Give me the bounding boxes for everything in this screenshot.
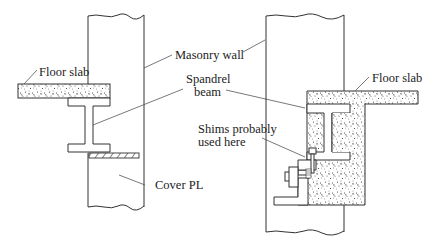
label-cover-pl: Cover PL bbox=[155, 178, 203, 192]
bolt-head-vertical bbox=[309, 148, 316, 154]
label-floor-slab-right: Floor slab bbox=[372, 71, 422, 85]
leader-floor-slab-right bbox=[355, 77, 369, 91]
leader-masonry-wall-right bbox=[243, 40, 265, 52]
leader-shims bbox=[262, 138, 305, 157]
label-shims-line1: Shims probably bbox=[198, 122, 278, 136]
left-detail: Floor slab Cover PL bbox=[18, 14, 203, 210]
left-floor-slab bbox=[18, 84, 110, 98]
shared-labels: Masonry wall Spandrel beam bbox=[93, 40, 305, 125]
label-spandrel-line1: Spandrel bbox=[186, 72, 231, 86]
shims bbox=[306, 169, 311, 178]
label-masonry-wall: Masonry wall bbox=[175, 48, 245, 62]
spandrel-beam-diagram: Floor slab Cover PL Masonry wall Spandre… bbox=[0, 0, 437, 249]
label-floor-slab-left: Floor slab bbox=[39, 65, 89, 79]
left-spandrel-i-beam bbox=[68, 98, 110, 152]
shim-block bbox=[289, 167, 298, 187]
leader-floor-slab-left bbox=[24, 70, 37, 84]
label-shims-line2: used here bbox=[198, 135, 246, 149]
left-masonry-wall bbox=[88, 14, 144, 210]
label-spandrel-line2: beam bbox=[194, 85, 221, 99]
bolt-shank-vertical bbox=[311, 154, 314, 173]
leader-masonry-wall-left bbox=[144, 55, 172, 68]
leader-cover-pl bbox=[119, 175, 145, 185]
left-cover-plate bbox=[89, 153, 139, 158]
